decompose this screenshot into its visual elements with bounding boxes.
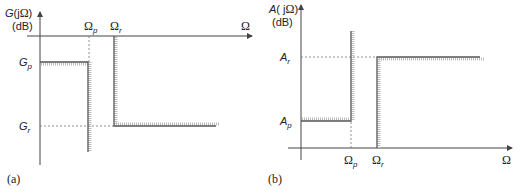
filter-spec-diagrams: G(jΩ) (dB) Ω Ωp Ωr Gp Gr (a) [0,0,521,196]
panel-b-passband-bound [301,31,351,121]
panel-b-ar-label: Ar [279,51,290,66]
panel-b-x-label: Ω [502,153,511,167]
panel-b-attenuation-spec: A( jΩ) (dB) Ar Ap Ωp Ωr Ω (b) [268,2,512,186]
panel-a-omega-p-label: Ωp [84,19,98,35]
panel-b-omega-r-label: Ωr [372,153,384,169]
panel-b-omega-p-label: Ωp [344,153,358,169]
panel-a-omega-r-label: Ωr [110,19,122,35]
panel-a-gr-label: Gr [19,120,31,135]
panel-b-stopband-bound [377,57,480,148]
panel-b-y-unit: (dB) [272,16,293,28]
panel-a-gain-spec: G(jΩ) (dB) Ω Ωp Ωr Gp Gr (a) [5,6,252,186]
panel-a-gp-label: Gp [19,56,33,71]
panel-a-x-label: Ω [241,19,250,33]
panel-a-y-label: G(jΩ) [5,6,32,20]
panel-a-y-unit: (dB) [12,20,33,32]
panel-a-caption: (a) [7,172,20,186]
panel-a-stopband-bound [114,36,216,126]
panel-b-y-label: A( jΩ) [268,2,298,16]
panel-b-caption: (b) [268,172,282,186]
panel-a-passband-bound [40,62,88,152]
panel-b-ap-label: Ap [279,115,292,130]
